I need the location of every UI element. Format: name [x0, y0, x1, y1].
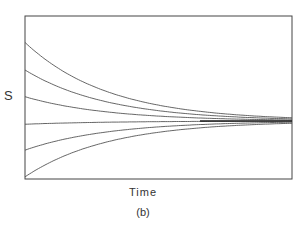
series-line-3 — [25, 97, 292, 120]
x-axis-label: Time — [0, 186, 286, 198]
series-line-1 — [25, 42, 292, 117]
plot-frame — [25, 16, 292, 179]
figure-caption: (b) — [0, 206, 286, 218]
line-chart — [0, 0, 304, 233]
series-line-2 — [25, 70, 292, 119]
y-axis-label: S — [4, 88, 13, 103]
series-line-5 — [25, 122, 292, 150]
series-line-6 — [25, 123, 292, 177]
series-lines — [25, 42, 292, 177]
